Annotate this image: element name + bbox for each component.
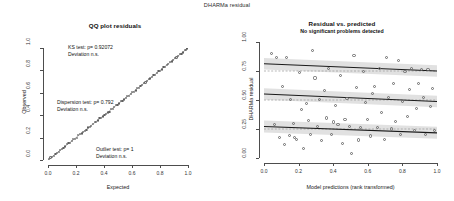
qq-x-ticklabel: 1.0 [178,170,198,176]
res-x-tick [368,163,369,166]
residual-point [278,136,281,139]
residual-point [298,71,301,74]
res-x-axis-title: Model predictions (rank transformed) [264,184,437,190]
residual-point [380,111,383,114]
qq-point [186,48,188,50]
residual-point [394,120,397,123]
qq-x-ticklabel: 0.6 [122,170,142,176]
qq-x-tick [188,165,189,168]
qq-y-tick [40,93,43,94]
residual-point [406,115,409,118]
residual-point [403,70,406,73]
qq-point [164,66,166,68]
res-x-tick [264,163,265,166]
qq-x-tick [48,165,49,168]
qq-x-axis-title: Expected [68,184,168,190]
qq-y-tick [40,138,43,139]
ks-test-line1: KS test: p= 0.92072 [68,44,113,51]
qq-point [135,89,137,91]
qq-x-tick [160,165,161,168]
qq-point [97,119,99,121]
res-y-tick [256,158,259,159]
qq-point [76,137,78,139]
res-y-axis-line [259,42,260,158]
qq-x-tick [104,165,105,168]
res-y-tick [256,129,259,130]
residual-point [288,134,291,137]
dispersion-test-annotation: Dispersion test: p= 0.792 Deviation n.s. [57,99,114,113]
residual-point [390,127,393,130]
qq-y-tick [40,48,43,49]
res-x-ticklabel: 0.0 [254,168,274,174]
ks-test-annotation: KS test: p= 0.92072 Deviation n.s. [68,44,113,58]
residual-point [378,67,381,70]
residual-point [429,105,432,108]
qq-y-tick [40,160,43,161]
outlier-test-annotation: Outlier test: p= 1 Deviation n.s. [96,146,134,160]
qq-y-axis-title: Observed [21,72,27,132]
qq-x-ticklabel: 0.4 [94,170,114,176]
res-y-ticklabel: 1.00 [241,32,247,52]
res-y-ticklabel: 0.00 [241,148,247,168]
res-x-tick [437,163,438,166]
residual-point [431,87,434,90]
residual-point [397,59,400,62]
residual-point [343,118,346,121]
residual-plot-area [264,42,437,158]
residual-point [385,56,388,59]
qq-x-tick [76,165,77,168]
residual-point [339,74,342,77]
res-y-axis-title: DHARMa residual [248,52,254,147]
qq-y-ticklabel: 0.0 [25,150,31,170]
qq-x-ticklabel: 0.8 [150,170,170,176]
dharma-diagnostics-figure: DHARMa residual QQ plot residuals 0.00.2… [0,0,454,201]
qq-x-tick [132,165,133,168]
residual-point [357,138,360,141]
res-x-tick [299,163,300,166]
res-x-ticklabel: 0.4 [323,168,343,174]
qq-x-axis-line [48,165,188,166]
residual-point [323,89,326,92]
residual-point [376,126,379,129]
res-x-tick [333,163,334,166]
qq-x-ticklabel: 0.2 [66,170,86,176]
residual-point [305,102,308,105]
residual-point [413,129,416,132]
res-panel-title: Residual vs. predicted [257,20,427,27]
qq-panel-title: QQ plot residuals [20,22,210,29]
res-y-tick [256,42,259,43]
res-y-ticklabel: 0.50 [241,90,247,110]
dispersion-test-line2: Deviation n.s. [57,106,114,113]
residual-vs-predicted-panel: Residual vs. predicted No significant pr… [227,0,454,201]
residual-point [387,96,390,99]
qq-plot-panel: QQ plot residuals 0.00.20.40.60.81.0 Obs… [0,0,227,201]
residual-point [307,119,310,122]
residual-point [383,138,386,141]
residual-point [283,143,286,146]
res-panel-subtitle: No significant problems detected [242,28,442,34]
residual-point [336,123,339,126]
qq-point [161,68,163,70]
residual-point [369,134,372,137]
res-x-ticklabel: 0.8 [392,168,412,174]
outlier-test-line2: Deviation n.s. [96,153,134,160]
qq-point [53,155,55,157]
qq-y-axis-line [43,48,44,160]
residual-point [292,122,295,125]
res-y-ticklabel: 0.75 [241,61,247,81]
residual-point [275,56,278,59]
qq-point [85,129,87,131]
res-y-tick [256,71,259,72]
res-y-tick [256,100,259,101]
res-x-ticklabel: 0.2 [289,168,309,174]
residual-point [401,100,404,103]
residual-point [355,86,358,89]
residual-point [330,133,333,136]
res-x-axis-line [264,163,437,164]
residual-point [352,54,355,57]
qq-y-ticklabel: 1.0 [25,38,31,58]
residual-point [309,133,312,136]
outlier-test-line1: Outlier test: p= 1 [96,146,134,153]
residual-point [313,76,316,79]
residual-point [348,125,351,128]
